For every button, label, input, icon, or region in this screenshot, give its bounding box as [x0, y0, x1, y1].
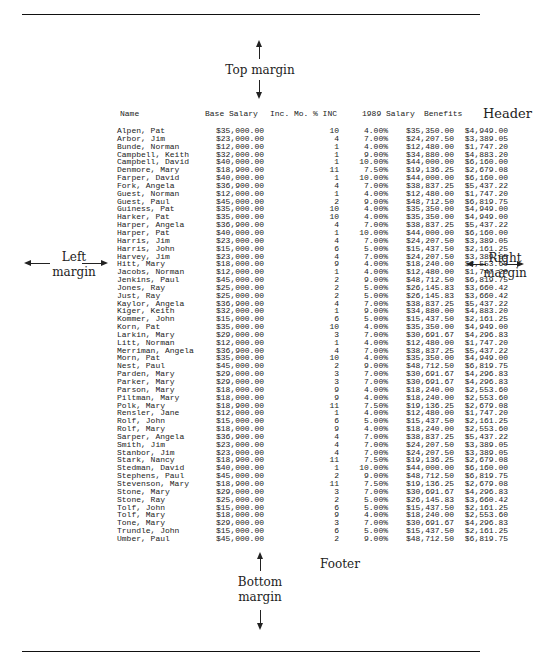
page-top-border	[22, 14, 480, 15]
top-margin-arrow-up-icon	[259, 45, 260, 59]
cell-pct-inc: 9.00%	[345, 535, 388, 543]
bottom-margin-label-line1: Bottom	[236, 575, 284, 590]
cell-name: Umber, Paul	[117, 535, 170, 543]
column-header-name: Name	[120, 110, 139, 118]
left-margin-arrow-left-icon	[30, 263, 50, 264]
table-header-row: Name Base Salary Inc. Mo. % INC 1989 Sal…	[117, 110, 517, 120]
column-header-pct-inc: % INC	[313, 110, 337, 118]
column-header-base-salary: Base Salary	[205, 110, 258, 118]
top-margin-label: Top margin	[222, 63, 298, 78]
column-header-1989-salary: 1989 Salary	[362, 110, 415, 118]
cell-inc-mo: 2	[317, 535, 339, 543]
top-margin-arrow-down-icon	[259, 80, 260, 94]
footer-label: Footer	[318, 557, 362, 572]
bottom-margin-arrow-down-icon	[260, 610, 261, 625]
left-margin-label: Left margin	[52, 250, 96, 280]
left-margin-label-line2: margin	[52, 265, 96, 280]
column-header-inc-mo: Inc. Mo.	[270, 110, 308, 118]
bottom-margin-label-line2: margin	[236, 590, 284, 605]
cell-base-salary: $45,000.00	[204, 535, 264, 543]
bottom-margin-arrow-up-icon	[260, 557, 261, 571]
column-header-benefits: Benefits	[424, 110, 462, 118]
cell-1989-salary: $48,712.50	[394, 535, 454, 543]
page-bottom-border	[22, 651, 480, 652]
left-margin-arrow-right-icon	[82, 263, 102, 264]
bottom-margin-label: Bottom margin	[236, 575, 284, 605]
cell-benefits: $6,819.75	[457, 535, 508, 543]
